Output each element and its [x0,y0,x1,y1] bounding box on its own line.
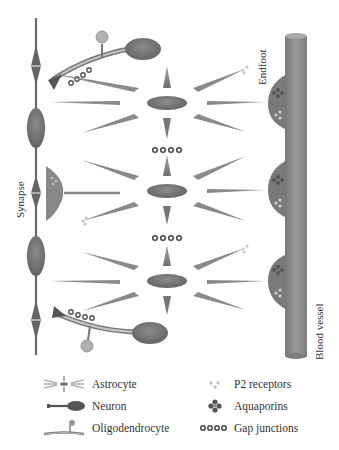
endfoot-top [268,74,287,130]
legend-label-p2-receptors: P2 receptors [234,378,291,390]
oligodendrocyte-top [48,31,161,90]
astrocyte-icon [40,375,88,393]
legend-item-aquaporins: Aquaporins [200,396,288,416]
glial-network-diagram: Synapse Endfoot Blood vessel [0,0,339,370]
p2-receptor-icon [200,375,230,393]
astrocyte-bottom [50,244,265,315]
legend-item-astrocyte: Astrocyte [40,374,137,394]
legend-label-gap-junctions: Gap junctions [234,422,298,434]
axon-chain [27,18,45,355]
legend-label-astrocyte: Astrocyte [92,378,137,390]
synapse-label: Synapse [14,181,26,218]
legend-item-neuron: Neuron [40,396,127,416]
blood-vessel-label: Blood vessel [313,303,325,360]
legend: Astrocyte Neuron Oligodendrocyte P2 rece… [0,372,339,450]
legend-item-oligodendrocyte: Oligodendrocyte [40,418,169,438]
neuron-icon [40,397,88,415]
endfoot-bottom [268,254,287,310]
endfoot-label: Endfoot [256,50,268,85]
p2-receptor-top [241,65,248,74]
astrocyte-middle [81,155,265,226]
legend-label-aquaporins: Aquaporins [234,400,288,412]
p2-receptor-middle [81,216,87,225]
gap-junction-icon [200,419,230,437]
endfoot-middle [268,160,287,218]
blood-vessel [285,33,307,359]
legend-item-p2-receptors: P2 receptors [200,374,291,394]
oligodendrocyte-icon [40,419,88,437]
gap-junctions-lower [153,236,182,241]
legend-label-neuron: Neuron [92,400,127,412]
aquaporin-icon [200,397,230,415]
gap-junctions-upper [153,148,182,153]
p2-receptor-bottom [241,244,248,253]
legend-item-gap-junctions: Gap junctions [200,418,298,438]
legend-label-oligodendrocyte: Oligodendrocyte [92,422,169,434]
